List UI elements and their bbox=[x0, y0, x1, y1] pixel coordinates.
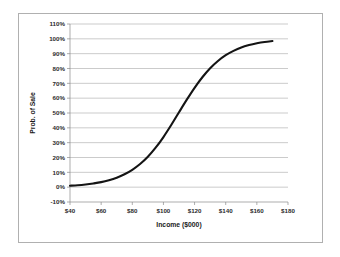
y-tick-label: 110% bbox=[50, 20, 66, 27]
x-axis-title: Income ($000) bbox=[156, 221, 201, 229]
y-tick-label: 50% bbox=[53, 109, 66, 116]
y-tick-label: 60% bbox=[53, 94, 66, 101]
y-tick-label: 80% bbox=[53, 65, 66, 72]
x-tick-label: $180 bbox=[281, 207, 295, 214]
y-axis-tick-labels: 110%100%90%80%70%60%50%40%30%20%10%0%-10… bbox=[49, 20, 65, 205]
x-tick-label: $160 bbox=[250, 207, 264, 214]
y-tick-label: 100% bbox=[49, 35, 65, 42]
x-tick-label: $120 bbox=[188, 207, 202, 214]
y-tick-label: 20% bbox=[53, 154, 66, 161]
chart-container: 110%100%90%80%70%60%50%40%30%20%10%0%-10… bbox=[18, 13, 323, 243]
y-tick-label: 90% bbox=[53, 50, 66, 57]
y-axis-title: Prob. of Sale bbox=[29, 92, 36, 134]
x-tick-label: $60 bbox=[96, 207, 107, 214]
y-tick-label: 40% bbox=[53, 124, 66, 131]
x-axis-tick-labels: $40$60$80$100$120$140$160$180 bbox=[65, 207, 296, 214]
y-tick-label: -10% bbox=[51, 198, 66, 205]
x-tick-label: $100 bbox=[157, 207, 171, 214]
probability-of-sale-chart: 110%100%90%80%70%60%50%40%30%20%10%0%-10… bbox=[19, 14, 322, 242]
series-line-prob-of-sale bbox=[70, 41, 272, 186]
x-tick-label: $80 bbox=[127, 207, 138, 214]
y-tick-label: 30% bbox=[53, 139, 66, 146]
y-tick-label: 0% bbox=[56, 183, 65, 190]
y-tick-label: 10% bbox=[53, 169, 66, 176]
x-tick-label: $140 bbox=[219, 207, 233, 214]
y-tick-label: 70% bbox=[53, 80, 66, 87]
gridlines bbox=[70, 24, 288, 187]
x-tick-label: $40 bbox=[65, 207, 76, 214]
